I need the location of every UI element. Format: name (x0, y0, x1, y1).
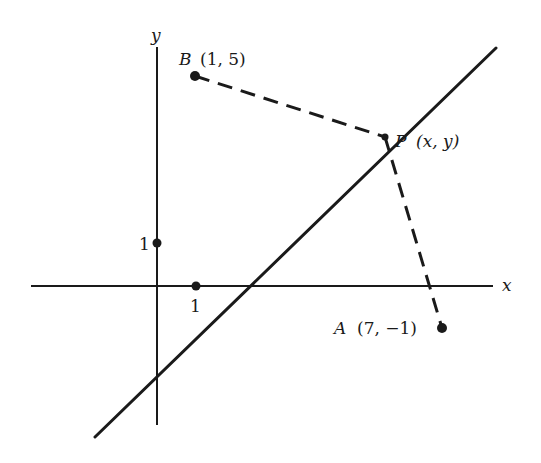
x-axis-label: x (502, 275, 512, 295)
y-axis-label: y (150, 25, 161, 45)
y-tick-label: 1 (139, 234, 150, 254)
point-p (382, 134, 389, 141)
point-a-name: A (332, 318, 346, 338)
point-p-coords: (x, y) (416, 131, 459, 151)
point-b-name: B (178, 49, 192, 69)
diagram-canvas: y x 1 1 B (1, 5) P (x, y) A (7, −1) (0, 0, 541, 463)
unit-point-x (192, 282, 201, 291)
x-tick-label: 1 (190, 296, 201, 316)
segment-pa (385, 137, 442, 328)
point-b-coords: (1, 5) (200, 49, 246, 69)
segment-bp (195, 76, 385, 137)
unit-point-y (153, 239, 162, 248)
point-p-name: P (394, 131, 407, 151)
point-a (437, 323, 447, 333)
point-a-coords: (7, −1) (357, 318, 417, 338)
point-b (190, 71, 200, 81)
